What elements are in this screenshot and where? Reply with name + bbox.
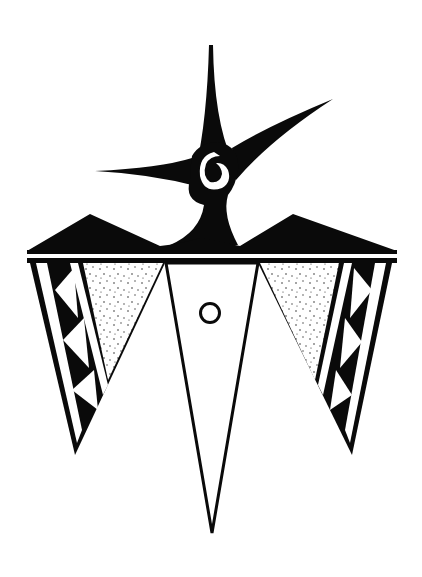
circle-eye [201, 304, 220, 323]
right-wing-with-zigzag [258, 263, 392, 455]
spiral-star-crest [95, 45, 333, 245]
left-wing-with-zigzag [30, 263, 165, 455]
bird-motif-artwork [0, 0, 422, 577]
